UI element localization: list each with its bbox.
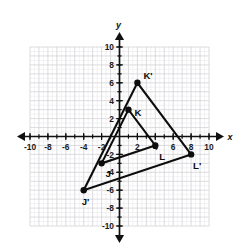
x-tick-label: -6 <box>62 142 70 152</box>
y-tick-label: 4 <box>109 96 114 106</box>
vertex-point <box>125 106 131 112</box>
y-axis-arrow-up-icon <box>115 32 124 40</box>
x-axis-arrow-left-icon <box>17 132 25 141</box>
vertex-label: K <box>134 107 141 118</box>
vertex-label: K' <box>143 70 152 81</box>
y-axis-label: y <box>115 20 122 30</box>
vertex-label: L' <box>193 160 201 171</box>
coordinate-grid-svg: -10-8-6-4-2246810 108642-2-4-6-8-10 x y … <box>0 0 243 249</box>
vertex-label: J' <box>82 196 90 207</box>
x-tick-label: -4 <box>80 142 88 152</box>
vertex-point <box>188 151 194 157</box>
x-tick-label: 10 <box>204 142 214 152</box>
vertex-label: L <box>159 151 165 162</box>
x-tick-label: -8 <box>44 142 52 152</box>
vertex-point <box>81 187 87 193</box>
x-axis-arrow-right-icon <box>216 132 224 141</box>
y-tick-label: -6 <box>107 185 115 195</box>
x-tick-label: -10 <box>24 142 36 152</box>
vertex-point <box>134 80 140 86</box>
x-tick-label: 8 <box>189 142 194 152</box>
coordinate-plane-figure: -10-8-6-4-2246810 108642-2-4-6-8-10 x y … <box>0 0 243 249</box>
y-tick-label: 6 <box>109 78 114 88</box>
y-tick-label: 2 <box>109 114 114 124</box>
y-tick-label: 8 <box>109 60 114 70</box>
y-axis-arrow-down-icon <box>115 235 124 243</box>
vertex-labels: JKLJ'K'L' <box>82 70 202 207</box>
vertex-point <box>152 142 158 148</box>
y-tick-label: 10 <box>105 42 115 52</box>
x-axis-label: x <box>226 132 233 142</box>
y-axis <box>115 32 124 243</box>
x-tick-label: 6 <box>171 142 176 152</box>
y-tick-label: -8 <box>107 203 115 213</box>
vertex-label: J <box>106 168 111 179</box>
y-tick-label: -10 <box>102 221 114 231</box>
vertex-point <box>98 160 104 166</box>
